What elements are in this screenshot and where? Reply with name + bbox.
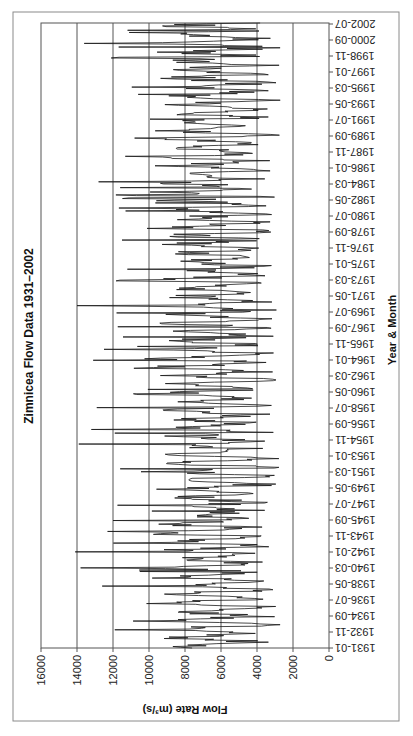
time-tick-label: 1986-01 [335,162,375,174]
flow-tick-label: 16000 [35,655,47,686]
flow-tick-label: 12000 [107,655,119,686]
flow-tick-label: 6000 [215,655,227,679]
time-tick-label: 1995-03 [335,82,375,94]
time-tick-label: 1938-05 [335,578,375,590]
flow-tick-label: 8000 [179,655,191,679]
time-tick-label: 1943-11 [335,530,375,542]
flow-chart: 0200040006000800010000120001400016000 19… [0,0,413,736]
time-tick-label: 1984-03 [335,178,375,190]
time-tick-label: 1932-11 [335,626,375,638]
time-tick-label: 1962-03 [335,370,375,382]
time-tick-label: 2002-07 [335,18,375,30]
flow-axis-title: Flow Rate (m³/s) [142,704,227,716]
time-axis-title: Year & Month [386,295,398,366]
flow-tick-label: 2000 [287,655,299,679]
time-tick-label: 1960-05 [335,386,375,398]
time-tick-label: 1936-07 [335,594,375,606]
flow-tick-label: 10000 [143,655,155,686]
time-tick-label: 1978-09 [335,226,375,238]
time-tick-label: 1951-03 [335,466,375,478]
time-tick-label: 1954-11 [335,434,375,446]
time-tick-label: 1976-11 [335,242,375,254]
time-tick-label: 1964-01 [335,354,375,366]
time-tick-label: 1947-07 [335,498,375,510]
time-tick-label: 1949-05 [335,482,375,494]
time-tick-label: 1956-09 [335,418,375,430]
time-tick-label: 1975-01 [335,258,375,270]
time-tick-label: 1940-03 [335,562,375,574]
time-tick-label: 1967-09 [335,322,375,334]
time-tick-label: 1991-07 [335,114,375,126]
time-tick-label: 1945-09 [335,514,375,526]
flow-tick-label: 0 [323,655,335,661]
flow-tick-label: 4000 [251,655,263,679]
time-tick-label: 1973-03 [335,274,375,286]
time-tick-label: 1942-01 [335,546,375,558]
time-tick-label: 1997-01 [335,66,375,78]
time-tick-label: 1965-11 [335,338,375,350]
time-tick-label: 2000-09 [335,34,375,46]
time-tick-label: 1971-05 [335,290,375,302]
time-tick-label: 1969-07 [335,306,375,318]
time-tick-label: 1953-01 [335,450,375,462]
time-tick-label: 1931-01 [335,642,375,654]
time-tick-label: 1998-11 [335,50,375,62]
chart-title: Zimnicea Flow Data 1931–2002 [22,248,36,424]
time-tick-label: 1958-07 [335,402,375,414]
time-tick-label: 1989-09 [335,130,375,142]
flow-tick-label: 14000 [71,655,83,686]
time-tick-label: 1987-11 [335,146,375,158]
time-tick-label: 1982-05 [335,194,375,206]
time-tick-label: 1980-07 [335,210,375,222]
time-tick-label: 1934-09 [335,610,375,622]
time-tick-label: 1993-05 [335,98,375,110]
